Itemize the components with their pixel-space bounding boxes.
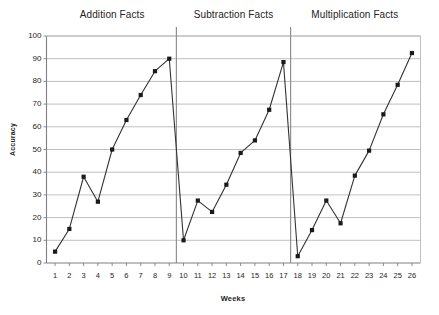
- data-point-marker: [139, 93, 143, 97]
- data-point-marker: [381, 112, 385, 116]
- data-point-marker: [267, 108, 271, 112]
- data-point-marker: [210, 210, 214, 214]
- data-point-marker: [82, 175, 86, 179]
- data-point-marker: [296, 254, 300, 258]
- data-point-marker: [110, 147, 114, 151]
- y-tick-label: 70: [16, 100, 42, 108]
- data-point-marker: [96, 200, 100, 204]
- x-tick-label: 26: [402, 272, 422, 280]
- gridlines: [44, 36, 421, 263]
- data-point-marker: [167, 57, 171, 61]
- data-point-marker: [153, 69, 157, 73]
- y-tick-label: 10: [16, 236, 42, 244]
- data-point-marker: [239, 151, 243, 155]
- data-point-marker: [324, 198, 328, 202]
- y-tick-label: 60: [16, 123, 42, 131]
- data-point-marker: [181, 238, 185, 242]
- y-tick-label: 100: [16, 32, 42, 40]
- data-point-marker: [310, 228, 314, 232]
- data-point-marker: [224, 183, 228, 187]
- y-tick-label: 30: [16, 191, 42, 199]
- data-point-marker: [281, 60, 285, 64]
- y-tick-label: 20: [16, 214, 42, 222]
- accuracy-line-chart: Addition FactsSubtraction FactsMultiplic…: [0, 0, 439, 315]
- data-point-marker: [410, 51, 414, 55]
- data-line: [55, 53, 412, 256]
- accuracy-series-line: [55, 53, 412, 256]
- data-point-marker: [196, 198, 200, 202]
- phase-divider-lines: [176, 27, 290, 263]
- data-point-marker: [396, 83, 400, 87]
- y-tick-label: 40: [16, 168, 42, 176]
- data-markers: [53, 51, 414, 258]
- y-tick-label: 80: [16, 77, 42, 85]
- data-point-marker: [124, 118, 128, 122]
- data-point-marker: [353, 174, 357, 178]
- y-tick-label: 50: [16, 146, 42, 154]
- y-tick-label: 90: [16, 55, 42, 63]
- data-point-marker: [53, 250, 57, 254]
- plot-canvas: [0, 0, 439, 315]
- data-point-marker: [67, 227, 71, 231]
- data-point-marker: [367, 149, 371, 153]
- data-point-marker: [338, 221, 342, 225]
- y-tick-label: 0: [16, 259, 42, 267]
- data-point-marker: [253, 138, 257, 142]
